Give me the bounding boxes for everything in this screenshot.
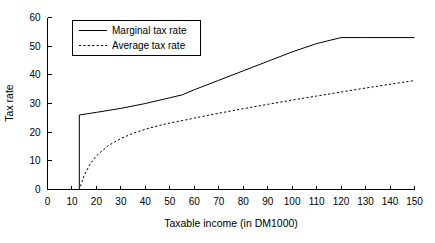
y-tick-label: 0	[35, 184, 41, 195]
x-tick-label: 140	[382, 196, 399, 207]
x-tick-label: 80	[238, 196, 250, 207]
y-tick-label: 30	[29, 98, 41, 109]
series-average-tax-rate	[48, 81, 415, 190]
x-tick-label: 0	[45, 196, 51, 207]
tax-rate-chart: 0102030405060 01020304050607080901001101…	[0, 0, 435, 243]
y-tick-label: 20	[29, 127, 41, 138]
y-tick-label: 50	[29, 41, 41, 52]
x-axis-tick-labels: 0102030405060708090100110120130140150	[45, 196, 424, 207]
chart-canvas: 0102030405060 01020304050607080901001101…	[0, 0, 435, 243]
x-tick-label: 130	[357, 196, 374, 207]
x-tick-label: 60	[189, 196, 201, 207]
y-tick-label: 60	[29, 12, 41, 23]
x-tick-label: 150	[406, 196, 423, 207]
x-tick-label: 10	[66, 196, 78, 207]
series-group	[48, 38, 415, 190]
x-axis-title: Taxable income (in DM1000)	[164, 217, 298, 229]
x-tick-label: 50	[164, 196, 176, 207]
legend-label-average: Average tax rate	[112, 40, 186, 51]
x-tick-label: 30	[115, 196, 127, 207]
y-tick-label: 10	[29, 155, 41, 166]
x-tick-label: 20	[91, 196, 103, 207]
x-axis-ticks	[48, 186, 415, 190]
x-tick-label: 110	[309, 196, 325, 207]
x-tick-label: 90	[262, 196, 274, 207]
y-axis-tick-labels: 0102030405060	[29, 12, 41, 195]
x-tick-label: 70	[213, 196, 225, 207]
x-tick-label: 100	[284, 196, 301, 207]
series-marginal-tax-rate	[48, 38, 415, 190]
y-axis-ticks	[48, 18, 52, 190]
x-tick-label: 120	[333, 196, 350, 207]
chart-legend: Marginal tax rate Average tax rate	[73, 21, 201, 56]
x-tick-label: 40	[140, 196, 152, 207]
y-axis-title: Tax rate	[3, 84, 15, 122]
legend-label-marginal: Marginal tax rate	[112, 25, 187, 36]
y-tick-label: 40	[29, 69, 41, 80]
